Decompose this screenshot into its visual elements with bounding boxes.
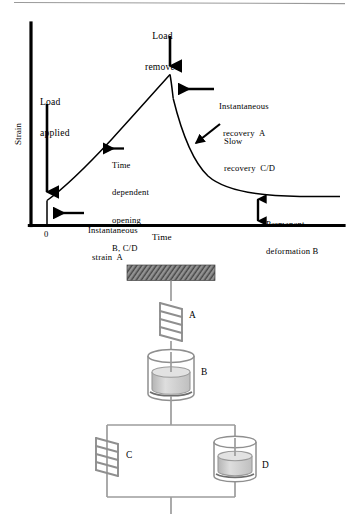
annotation-load-removed: Load removed — [145, 10, 180, 93]
arrow-slow-recovery — [196, 124, 220, 143]
annotation-permanent-deformation-line1: Permanent — [266, 220, 318, 229]
annotation-load-removed-line1: Load — [145, 31, 180, 41]
dashpot-b — [148, 350, 194, 401]
annotation-permanent-deformation: Permanent deformation B — [266, 201, 318, 275]
annotation-permanent-deformation-line2: deformation B — [266, 247, 318, 256]
model-label-d: D — [262, 460, 269, 470]
annotation-load-applied-line1: Load — [40, 97, 70, 107]
annotation-instantaneous-strain: Instantaneous strain A — [88, 207, 138, 281]
mechanical-model — [96, 265, 256, 514]
annotation-load-removed-line2: removed — [145, 62, 180, 72]
annotation-instantaneous-strain-line2: strain A — [88, 253, 138, 262]
chart-axes — [29, 23, 344, 226]
annotation-instantaneous-recovery-line1: Instantaneous — [219, 102, 269, 111]
annotation-load-applied-line2: applied — [40, 128, 70, 138]
model-label-b: B — [201, 367, 207, 377]
dashpot-d — [214, 436, 256, 482]
figure-root: Strain Time 0 Load applied Load removed … — [0, 0, 352, 514]
annotation-instantaneous-strain-line1: Instantaneous — [88, 226, 138, 235]
spring-a — [160, 303, 182, 341]
annotation-slow-recovery-line2: recovery C/D — [224, 164, 275, 173]
x-axis-title: Time — [152, 233, 172, 243]
annotation-time-dependent-opening-line1: Time — [112, 161, 149, 170]
page-top-rule — [14, 3, 345, 4]
annotation-load-applied: Load applied — [40, 76, 70, 159]
model-label-a: A — [189, 310, 196, 320]
y-axis-title: Strain — [13, 123, 23, 145]
model-label-c: C — [126, 450, 132, 460]
annotation-time-dependent-opening-line2: dependent — [112, 188, 149, 197]
annotation-slow-recovery: Slow recovery C/D — [224, 118, 275, 192]
x-axis-origin-tick-label: 0 — [44, 230, 49, 239]
annotation-slow-recovery-line1: Slow — [224, 137, 275, 146]
